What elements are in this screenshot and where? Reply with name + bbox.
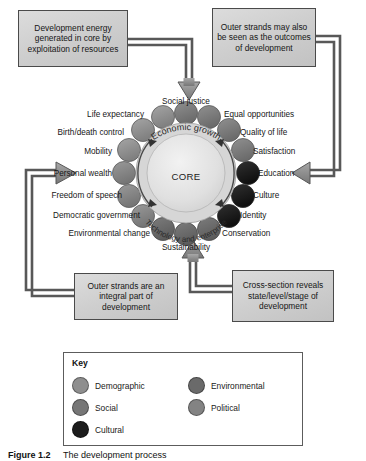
key-dot-cultural-icon xyxy=(72,421,89,438)
figure-container: Economic growth Technology and enterpris… xyxy=(0,0,366,461)
ring-label-conservation: Conservation xyxy=(222,229,270,238)
figure-caption-label: Figure 1.2 xyxy=(8,450,51,460)
ring-label-identity: Identity xyxy=(240,211,266,220)
ring-label-mobility: Mobility xyxy=(42,147,112,156)
core-center-label: CORE xyxy=(166,171,206,182)
key-label-environmental: Environmental xyxy=(211,381,265,391)
ring-label-social-justice: Social justice xyxy=(136,97,236,106)
key-item-social: Social xyxy=(72,399,118,416)
key-dot-demographic-icon xyxy=(72,377,89,394)
key-label-political: Political xyxy=(211,403,240,413)
key-dot-environmental-icon xyxy=(188,377,205,394)
figure-caption-text: The development process xyxy=(63,450,167,460)
ring-label-birth-death-control: Birth/death control xyxy=(18,128,124,137)
ring-label-equal-opportunities: Equal opportunities xyxy=(224,110,294,119)
box-outer-strands-integral: Outer strands are an integral part of de… xyxy=(74,273,178,320)
ring-label-personal-wealth: Personal wealth xyxy=(14,169,112,178)
key-item-cultural: Cultural xyxy=(72,421,124,438)
ring-label-environmental-change: Environmental change xyxy=(10,229,150,238)
key-label-cultural: Cultural xyxy=(95,425,124,435)
connector-development-to-core xyxy=(128,39,200,100)
key-item-political: Political xyxy=(188,399,240,416)
box-cross-section: Cross-section reveals state/level/stage … xyxy=(232,270,334,322)
key-item-environmental: Environmental xyxy=(188,377,265,394)
ring-label-education: Education xyxy=(258,169,294,178)
ring-label-quality-of-life: Quality of life xyxy=(240,128,287,137)
key-label-social: Social xyxy=(95,403,118,413)
key-title: Key xyxy=(72,358,88,368)
key-dot-social-icon xyxy=(72,399,89,416)
box-development-energy: Development energy generated in core by … xyxy=(18,10,128,67)
figure-caption: Figure 1.2 The development process xyxy=(8,450,167,460)
ring-label-democratic-government: Democratic government xyxy=(4,211,140,220)
ring-label-satisfaction: Satisfaction xyxy=(253,147,295,156)
ring-label-sustainability: Sustainability xyxy=(140,243,232,252)
key-dot-political-icon xyxy=(188,399,205,416)
ring-label-freedom-of-speech: Freedom of speech xyxy=(10,191,122,200)
ring-label-culture: Culture xyxy=(253,191,279,200)
box-outer-strands-outcomes: Outer strands may also be seen as the ou… xyxy=(212,8,316,67)
key-legend-box: Key Demographic Social Cultural Environm… xyxy=(63,352,303,446)
key-item-demographic: Demographic xyxy=(72,377,145,394)
key-label-demographic: Demographic xyxy=(95,381,145,391)
ring-label-life-expectancy: Life expectancy xyxy=(40,110,144,119)
